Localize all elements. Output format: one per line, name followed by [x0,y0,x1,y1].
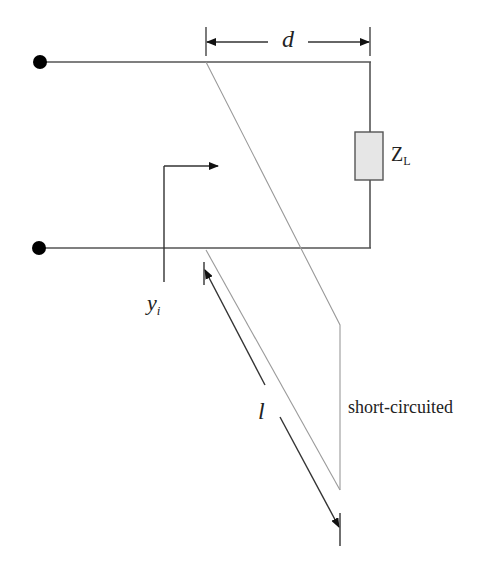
load-label-main: Z [391,143,403,165]
load-impedance-label: ZL [391,143,411,166]
stub-termination-label: short-circuited [348,397,453,418]
load-impedance-box [355,132,383,180]
input-admittance-label: yi [147,290,160,316]
transmission-line [40,62,371,248]
input-admittance-reference [164,166,218,282]
input-terminal-top [33,55,47,69]
admittance-label-subscript: i [157,303,161,318]
load-label-subscript: L [403,154,410,168]
distance-label: d [282,26,294,53]
admittance-label-main: y [147,290,157,315]
circuit-diagram [0,0,494,568]
input-terminal-bottom [32,241,46,255]
stub-length-dimension [204,262,340,546]
stub-length-label: l [258,398,265,425]
short-circuited-stub [206,62,340,490]
